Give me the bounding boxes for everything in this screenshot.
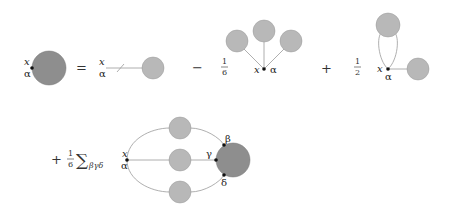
- coef-denominator: 6: [68, 160, 73, 169]
- loop-blob: [376, 13, 400, 37]
- blob-bottom: [169, 181, 191, 203]
- label-x: x: [99, 56, 105, 67]
- one-point-blob: [142, 57, 164, 79]
- label-x: x: [122, 148, 128, 159]
- label-beta: β: [225, 133, 231, 144]
- label-delta: δ: [221, 177, 227, 188]
- vertex-dot: [262, 67, 266, 71]
- four-point-blob: [216, 143, 250, 177]
- term1: x α: [99, 56, 164, 79]
- loop-right: [388, 32, 397, 69]
- full-propagator-blob: [32, 51, 66, 85]
- plus-sign: +: [321, 61, 332, 76]
- label-alpha: α: [121, 160, 128, 171]
- side-blob: [407, 58, 429, 80]
- coef-numerator: 1: [222, 57, 227, 66]
- label-alpha: α: [99, 68, 106, 79]
- arc-bottom-left: [127, 160, 170, 192]
- coef-denominator: 6: [222, 68, 227, 77]
- label-alpha: α: [270, 64, 277, 75]
- arc-top-right: [190, 128, 224, 145]
- label-x: x: [377, 63, 383, 74]
- term2: 1 6 x α: [221, 20, 302, 77]
- lhs-term: x α: [24, 51, 66, 85]
- label-gamma: γ: [206, 148, 212, 159]
- label-alpha: α: [24, 68, 31, 79]
- label-alpha: α: [385, 71, 392, 82]
- sum-symbol: ∑: [76, 150, 88, 170]
- vertex-gamma-dot: [214, 158, 218, 162]
- sum-subscript: βγδ: [88, 161, 103, 170]
- label-x: x: [24, 56, 30, 67]
- term3: 1 2 x α: [354, 13, 429, 82]
- label-x: x: [254, 64, 260, 75]
- blob-top: [169, 117, 191, 139]
- term4: + 1 6 ∑ βγδ x α β γ δ: [51, 117, 250, 203]
- coef-numerator: 1: [68, 149, 73, 158]
- coef-numerator: 1: [355, 57, 360, 66]
- diagram-canvas: x α = x α − 1 6 x α + 1 2 x: [0, 0, 451, 215]
- blob-middle: [253, 20, 275, 42]
- equals-sign: =: [76, 60, 87, 75]
- blob-left: [226, 30, 248, 52]
- arc-top-left: [127, 128, 170, 160]
- arc-bottom-right: [190, 175, 224, 192]
- minus-sign: −: [192, 60, 203, 75]
- coef-denominator: 2: [355, 68, 360, 77]
- blob-right: [280, 30, 302, 52]
- blob-middle: [169, 149, 191, 171]
- plus-sign: +: [51, 152, 62, 167]
